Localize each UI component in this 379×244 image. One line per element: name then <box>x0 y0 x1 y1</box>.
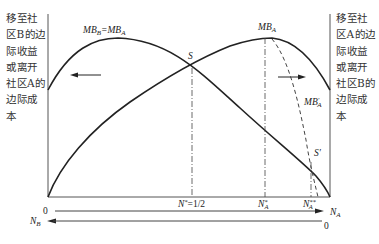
mba-curve <box>48 38 330 197</box>
n-star-label: N*=1/2 <box>177 198 205 209</box>
na-double-star-label: N**A <box>302 198 317 210</box>
na-axis-label: NA <box>329 207 341 219</box>
mbb-eq-mba-label: MBB=MBA <box>82 25 126 37</box>
na-star-label: N*A <box>257 198 269 210</box>
migration-equilibrium-diagram: MBB=MBA MBA MB′A S S′ N*=1/2 N*A N**A 0 … <box>0 0 379 244</box>
mbb-curve <box>48 38 330 197</box>
nb-axis-label: NB <box>29 216 41 228</box>
point-s-label: S <box>188 51 193 61</box>
na-axis-arrow-icon <box>315 209 324 214</box>
na-axis-origin-label: 0 <box>43 206 48 216</box>
point-s-prime-label: S′ <box>314 148 322 158</box>
nb-axis-origin-label: 0 <box>324 221 329 231</box>
arrow-left-icon <box>70 73 101 78</box>
mba-label: MBA <box>257 22 277 34</box>
mba-prime-label: MB′A <box>303 96 322 109</box>
arrow-right-icon <box>278 75 306 80</box>
